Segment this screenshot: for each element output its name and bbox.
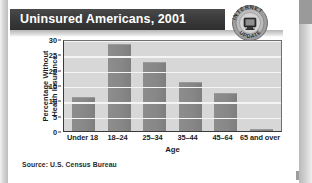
- bar-chart: Percentage Without Health Insurance 0510…: [22, 40, 284, 155]
- source-note: Source: U.S. Census Bureau: [22, 161, 117, 168]
- page-right-margin: [299, 0, 312, 183]
- y-axis-tick-label: 0: [53, 128, 57, 137]
- plot-area: [63, 40, 282, 132]
- x-axis-tick-label: 25–34: [135, 133, 170, 142]
- bar[interactable]: [179, 82, 202, 131]
- y-axis-tick-label: 5: [53, 112, 57, 121]
- chart-page: Uninsured Americans, 2001 INTERNET UPDAT…: [0, 0, 312, 183]
- gridline: [64, 72, 281, 73]
- gridline: [64, 102, 281, 103]
- y-axis-tick-label: 10: [49, 97, 57, 106]
- x-axis-tick-label: 45–64: [205, 133, 240, 142]
- x-axis-tick-label: 65 and over: [240, 133, 280, 142]
- internet-update-seal-icon: INTERNET UPDATE: [228, 2, 272, 42]
- x-axis-tick-label: Under 18: [65, 133, 100, 142]
- gridline: [64, 41, 281, 42]
- y-axis-tick-mark: [58, 116, 61, 117]
- y-axis-tick-label: 20: [49, 66, 57, 75]
- y-axis-tick-mark: [58, 70, 61, 71]
- y-axis-ticks: 051015202530: [44, 40, 61, 132]
- y-axis-tick-label: 25: [49, 51, 57, 60]
- internet-update-badge[interactable]: INTERNET UPDATE: [228, 2, 272, 42]
- figure-title-bar: Uninsured Americans, 2001: [10, 9, 225, 30]
- y-axis-tick-mark: [58, 86, 61, 87]
- x-axis-tick-labels: Under 1818–2425–3435–4445–6465 and over: [63, 133, 282, 142]
- x-axis-tick-label: 18–24: [100, 133, 135, 142]
- page-title: Uninsured Americans, 2001: [20, 12, 186, 26]
- page-left-margin: [0, 0, 8, 183]
- bar[interactable]: [214, 93, 237, 131]
- x-axis-tick-label: 35–44: [170, 133, 205, 142]
- y-axis-tick-mark: [58, 132, 61, 133]
- y-axis-tick-mark: [58, 55, 61, 56]
- y-axis-tick-label: 30: [49, 36, 57, 45]
- y-axis-tick-mark: [58, 101, 61, 102]
- page-right-tab: [299, 0, 312, 24]
- bar[interactable]: [250, 129, 273, 131]
- y-axis-tick-mark: [58, 40, 61, 41]
- gridline: [64, 118, 281, 119]
- gridline: [64, 87, 281, 88]
- x-axis-title: Age: [63, 145, 282, 154]
- gridline: [64, 56, 281, 57]
- y-axis-tick-label: 15: [49, 82, 57, 91]
